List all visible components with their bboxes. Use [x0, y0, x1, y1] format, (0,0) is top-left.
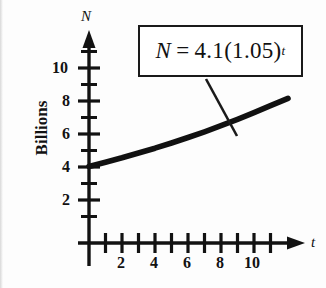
y-tick-label-2: 2: [62, 192, 70, 208]
equation-text: N = 4.1 ( 1.05 ) t: [140, 27, 301, 75]
y-tick-label-6: 6: [62, 126, 70, 142]
y-tick-label-4: 4: [62, 159, 70, 175]
x-axis-arrow: [287, 237, 305, 250]
equation-lhs: N: [156, 38, 172, 64]
equation-callout-box: N = 4.1 ( 1.05 ) t: [138, 25, 303, 77]
equation-open-paren: (: [224, 38, 232, 64]
x-tick-label-2: 2: [117, 255, 125, 271]
x-tick-label-10: 10: [244, 255, 260, 271]
x-tick-label-4: 4: [150, 255, 158, 271]
y-axis-title: Billions: [32, 78, 52, 178]
x-axis-variable-label: t: [311, 235, 315, 250]
exponential-growth-chart: 10 8 6 4 2 2 4 6 8 10 N t Billions N = 4…: [0, 0, 326, 288]
y-tick-label-8: 8: [62, 93, 70, 109]
x-tick-label-8: 8: [216, 255, 224, 271]
equation-equals: =: [176, 38, 189, 64]
equation-base: 1.05: [232, 38, 273, 64]
equation-close-paren: ): [274, 38, 282, 64]
equation-exponent: t: [282, 43, 286, 59]
equation-coefficient: 4.1: [194, 38, 224, 64]
y-axis-arrow: [83, 30, 96, 48]
x-tick-label-6: 6: [183, 255, 191, 271]
y-axis-variable-label: N: [81, 9, 91, 24]
data-curve: [89, 98, 288, 166]
y-tick-label-10: 10: [52, 60, 68, 76]
